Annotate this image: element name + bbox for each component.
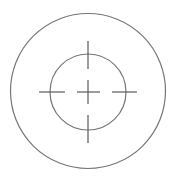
crosshair-diagram [0,0,177,185]
target-reticle-icon [0,0,177,185]
